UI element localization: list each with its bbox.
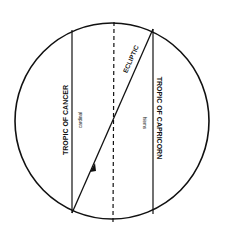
tropic-of-capricorn-label: TROPIC OF CAPRICORN [156,77,163,159]
equator-dashed-line [113,22,114,222]
celestial-sphere-diagram: TROPIC OF CANCER cardinal TROPIC OF CAPR… [0,0,225,233]
ecliptic-line [72,29,153,213]
tropic-of-capricorn-sublabel: hiems [142,117,147,130]
tropic-of-cancer-sublabel: cardinal [78,112,83,128]
ecliptic-label: ECLIPTIC [121,44,140,74]
tropic-of-cancer-label: TROPIC OF CANCER [62,85,69,155]
